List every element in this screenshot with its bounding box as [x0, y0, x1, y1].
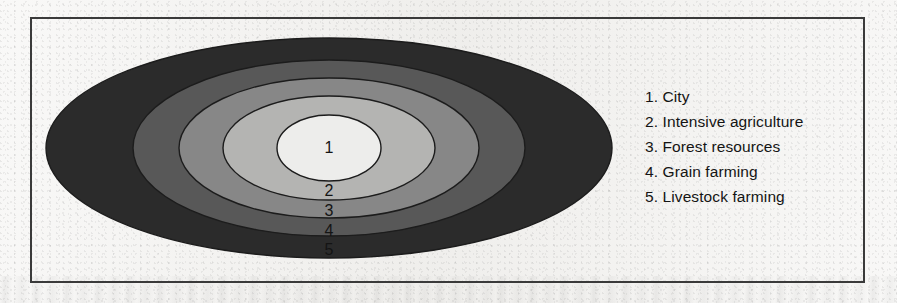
legend-item-3: 3. Forest resources	[645, 134, 860, 159]
zone-number-5: 5	[325, 241, 334, 258]
legend-item-4: 4. Grain farming	[645, 159, 860, 184]
legend-item-5: 5. Livestock farming	[645, 184, 860, 209]
zone-number-1: 1	[325, 139, 334, 156]
legend-item-1: 1. City	[645, 84, 860, 109]
legend: 1. City 2. Intensive agriculture 3. Fore…	[645, 84, 860, 209]
zone-number-3: 3	[325, 202, 334, 219]
zone-number-4: 4	[325, 222, 334, 239]
zone-number-2: 2	[325, 182, 334, 199]
legend-item-2: 2. Intensive agriculture	[645, 109, 860, 134]
